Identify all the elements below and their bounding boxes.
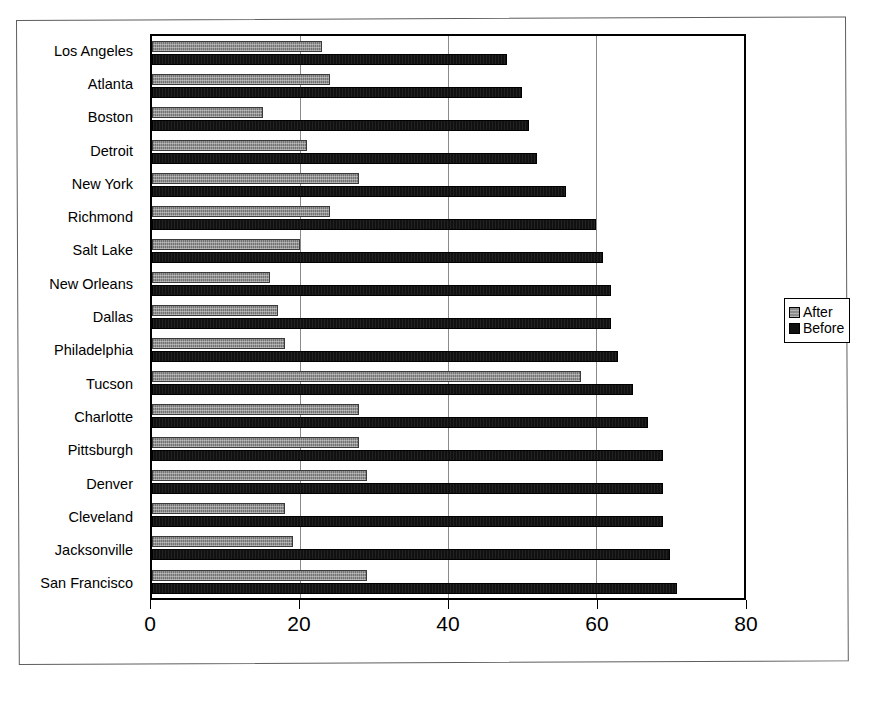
y-axis-label: Tucson [0,367,142,400]
bar-after [152,404,359,415]
x-axis-tick-label: 0 [144,612,156,636]
bar-before [152,583,677,594]
y-axis-label: Pittsburgh [0,434,142,467]
bar-before [152,87,522,98]
y-axis-label: Charlotte [0,400,142,433]
bar-before [152,549,670,560]
bar-row [152,301,744,334]
x-axis-ticks [150,600,746,609]
y-axis-label: Philadelphia [0,334,142,367]
bar-after [152,41,322,52]
bar-after [152,503,285,514]
bar-after [152,371,581,382]
bar-row [152,102,744,135]
y-axis-label: Los Angeles [0,34,142,67]
bar-rows [152,36,744,598]
bar-before [152,54,507,65]
x-axis-tick-label: 20 [287,612,310,636]
x-axis-tick-mark [597,600,598,609]
bar-before [152,450,663,461]
x-axis-tick-label: 60 [585,612,608,636]
bar-before [152,516,663,527]
bar-before [152,219,596,230]
bar-after [152,470,367,481]
y-axis-label: Denver [0,467,142,500]
bar-before [152,285,611,296]
bar-before [152,351,618,362]
bar-before [152,120,529,131]
legend-swatch-black-icon [789,323,800,334]
bar-row [152,36,744,69]
bar-after [152,239,300,250]
bar-before [152,186,566,197]
legend-label: Before [803,321,844,335]
legend-label: After [803,305,833,319]
bar-row [152,69,744,102]
x-axis-tick-mark [299,600,300,609]
bar-before [152,384,633,395]
legend-swatch-gray-icon [789,307,800,318]
y-axis-label: Richmond [0,200,142,233]
x-axis-tick-mark [746,600,747,609]
y-axis-label: New Orleans [0,267,142,300]
y-axis-label: New York [0,167,142,200]
bar-after [152,173,359,184]
bar-row [152,400,744,433]
chart-legend: AfterBefore [784,298,850,343]
bar-after [152,206,330,217]
x-axis-tick-mark [150,600,151,609]
x-axis-tick-label: 80 [734,612,757,636]
y-axis-label: Jacksonville [0,533,142,566]
bar-after [152,140,307,151]
bar-row [152,201,744,234]
bar-after [152,437,359,448]
bar-row [152,267,744,300]
bar-before [152,483,663,494]
y-axis-label: Boston [0,101,142,134]
x-axis-tick-label: 40 [436,612,459,636]
bar-before [152,252,603,263]
bar-row [152,367,744,400]
bar-after [152,536,293,547]
legend-entry: Before [789,321,844,335]
bar-before [152,318,611,329]
y-axis-label: Salt Lake [0,234,142,267]
chart-plot-area: Los AngelesAtlantaBostonDetroitNew YorkR… [0,0,878,702]
bar-row [152,499,744,532]
bar-after [152,570,367,581]
x-axis-tick-labels: 020406080 [150,612,746,646]
y-axis-label: Detroit [0,134,142,167]
bar-after [152,272,270,283]
bar-after [152,107,263,118]
y-axis-label: Dallas [0,300,142,333]
x-axis-tick-mark [448,600,449,609]
bar-after [152,74,330,85]
bar-before [152,153,537,164]
bar-before [152,417,648,428]
bar-row [152,466,744,499]
bar-row [152,565,744,598]
y-axis-label: Atlanta [0,67,142,100]
bar-row [152,234,744,267]
bar-row [152,532,744,565]
y-axis-label: Cleveland [0,500,142,533]
y-axis-category-labels: Los AngelesAtlantaBostonDetroitNew YorkR… [0,34,142,600]
bar-row [152,334,744,367]
chart-figure: Los AngelesAtlantaBostonDetroitNew YorkR… [0,0,878,702]
legend-entry: After [789,305,844,319]
bar-row [152,135,744,168]
bar-row [152,168,744,201]
bar-after [152,338,285,349]
y-axis-label: San Francisco [0,567,142,600]
bar-row [152,433,744,466]
bar-after [152,305,278,316]
plot-frame [150,34,746,600]
